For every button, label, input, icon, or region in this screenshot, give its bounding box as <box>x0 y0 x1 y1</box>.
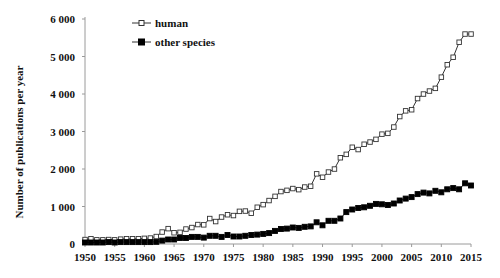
open-square-marker-icon <box>219 215 224 220</box>
open-square-marker-icon <box>469 32 474 37</box>
filled-square-marker-icon <box>255 232 260 237</box>
filled-square-marker-icon <box>385 203 390 208</box>
filled-square-marker-icon <box>184 236 189 241</box>
open-square-marker-icon <box>314 172 319 177</box>
series-other-species <box>83 181 474 245</box>
filled-square-marker-icon <box>148 240 153 245</box>
filled-square-marker-icon <box>391 201 396 206</box>
x-tick-label: 2000 <box>371 251 394 263</box>
open-square-marker-icon <box>433 86 438 91</box>
open-square-marker-icon <box>409 108 414 113</box>
series-human <box>83 32 474 242</box>
open-square-marker-icon <box>202 223 207 228</box>
open-square-marker-icon <box>184 227 189 232</box>
filled-square-marker-icon <box>279 227 284 232</box>
x-tick-label: 1970 <box>193 251 216 263</box>
filled-square-marker-icon <box>290 225 295 230</box>
series-line <box>85 183 471 242</box>
open-square-marker-icon <box>362 142 367 147</box>
open-square-marker-icon <box>380 132 385 137</box>
open-square-marker-icon <box>356 147 361 152</box>
x-tick-label: 1985 <box>282 251 305 263</box>
filled-square-marker-icon <box>213 233 218 238</box>
filled-square-marker-icon <box>112 240 117 245</box>
filled-square-marker-icon <box>326 218 331 223</box>
open-square-marker-icon <box>261 202 266 207</box>
filled-square-marker-icon <box>267 231 272 236</box>
y-axis-ticks: 01 0002 0003 0004 0005 0006 000 <box>50 13 85 250</box>
filled-square-marker-icon <box>261 231 266 236</box>
y-axis-title: Number of publications per year <box>13 65 25 218</box>
series-layer <box>83 32 474 245</box>
filled-square-marker-icon <box>421 190 426 195</box>
open-square-marker-icon <box>285 188 290 193</box>
filled-square-marker-icon <box>124 240 129 245</box>
publications-line-chart: 01 0002 0003 0004 0005 0006 000 19501955… <box>0 0 500 278</box>
filled-square-marker-icon <box>439 190 444 195</box>
open-square-marker-icon <box>308 184 313 189</box>
x-tick-label: 1955 <box>104 251 127 263</box>
open-square-marker-icon <box>445 63 450 68</box>
y-tick-label: 5 000 <box>50 51 75 63</box>
open-square-marker-icon <box>279 189 284 194</box>
x-tick-label: 1950 <box>74 251 97 263</box>
filled-square-marker-icon <box>249 233 254 238</box>
open-square-marker-icon <box>213 219 218 224</box>
filled-square-marker-icon <box>201 235 206 240</box>
open-square-marker-icon <box>297 187 302 192</box>
x-tick-label: 1965 <box>163 251 186 263</box>
y-tick-label: 4 000 <box>50 88 75 100</box>
y-tick-label: 2 000 <box>50 163 75 175</box>
open-square-marker-icon <box>368 140 373 145</box>
axes <box>85 17 471 244</box>
open-square-marker-icon <box>196 222 201 227</box>
filled-square-marker-icon <box>178 236 183 241</box>
filled-square-marker-icon <box>403 196 408 201</box>
x-tick-label: 2005 <box>401 251 424 263</box>
filled-square-marker-icon <box>362 205 367 210</box>
open-square-marker-icon <box>208 216 213 221</box>
filled-square-marker-icon <box>237 234 242 239</box>
filled-square-marker-icon <box>296 225 301 230</box>
filled-square-marker-icon <box>160 238 165 243</box>
filled-square-marker-icon <box>379 202 384 207</box>
filled-square-marker-icon <box>106 240 111 245</box>
filled-square-marker-icon <box>136 240 141 245</box>
filled-square-marker-icon <box>142 240 147 245</box>
filled-square-marker-icon <box>243 233 248 238</box>
legend-label-human: human <box>155 17 188 29</box>
x-tick-label: 1990 <box>312 251 335 263</box>
open-square-marker-icon <box>332 167 337 172</box>
open-square-marker-icon <box>166 226 171 231</box>
open-square-marker-icon <box>249 211 254 216</box>
filled-square-marker-icon <box>415 192 420 197</box>
x-axis-ticks: 1950195519601965197019751980198519901995… <box>74 244 483 263</box>
filled-square-marker-icon <box>83 240 88 245</box>
y-tick-label: 3 000 <box>50 126 75 138</box>
open-square-marker-icon <box>326 170 331 175</box>
y-tick-label: 0 <box>70 238 76 250</box>
filled-square-marker-icon <box>195 234 200 239</box>
open-square-marker-icon <box>344 152 349 157</box>
x-tick-label: 1960 <box>133 251 156 263</box>
filled-square-marker-icon <box>457 187 462 192</box>
filled-square-marker-icon <box>189 234 194 239</box>
open-square-marker-icon <box>267 198 272 203</box>
filled-square-marker-icon <box>302 224 307 229</box>
open-square-marker-icon <box>392 125 397 130</box>
filled-square-marker-icon <box>469 183 474 188</box>
series-line <box>85 34 471 240</box>
filled-square-marker-icon <box>338 216 343 221</box>
open-square-marker-icon <box>243 209 248 214</box>
filled-square-marker-icon <box>427 191 432 196</box>
open-square-marker-icon <box>403 109 408 114</box>
x-tick-label: 1975 <box>222 251 245 263</box>
filled-square-marker-icon <box>166 237 171 242</box>
y-tick-label: 1 000 <box>50 201 75 213</box>
filled-square-marker-icon <box>409 195 414 200</box>
filled-square-marker-icon <box>130 240 135 245</box>
filled-square-marker-icon <box>356 206 361 211</box>
filled-square-marker-icon <box>88 240 93 245</box>
filled-square-marker-icon <box>219 234 224 239</box>
open-square-marker-icon <box>303 185 308 190</box>
